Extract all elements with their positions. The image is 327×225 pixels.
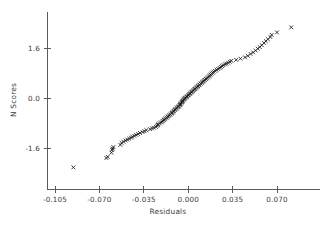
- data-point: [275, 30, 279, 34]
- y-tick-label: 1.6: [28, 44, 40, 53]
- x-axis-title: Residuals: [150, 207, 187, 216]
- data-point: [71, 165, 75, 169]
- plot-area: [71, 25, 293, 169]
- chart-canvas: 1.60.0-1.6 -0.105-0.070-0.0350.0000.0350…: [0, 0, 327, 225]
- scatter-markers: [71, 25, 293, 169]
- y-axis-title: N Scores: [9, 83, 18, 117]
- data-point: [289, 25, 293, 29]
- x-tick-label: -0.105: [43, 195, 67, 204]
- data-point: [106, 155, 110, 159]
- x-tick-label: 0.035: [222, 195, 243, 204]
- data-point: [239, 57, 243, 61]
- y-axis: 1.60.0-1.6: [25, 12, 51, 190]
- x-axis-ticks: -0.105-0.070-0.0350.0000.0350.070: [43, 186, 288, 204]
- y-tick-label: 0.0: [28, 94, 40, 103]
- y-tick-label: -1.6: [25, 144, 40, 153]
- data-point: [234, 58, 238, 62]
- x-axis: -0.105-0.070-0.0350.0000.0350.070: [43, 186, 320, 204]
- x-tick-label: -0.035: [132, 195, 156, 204]
- x-tick-label: 0.000: [178, 195, 200, 204]
- x-tick-label: -0.070: [87, 195, 111, 204]
- normal-probability-plot: 1.60.0-1.6 -0.105-0.070-0.0350.0000.0350…: [0, 0, 327, 225]
- x-tick-label: 0.070: [266, 195, 288, 204]
